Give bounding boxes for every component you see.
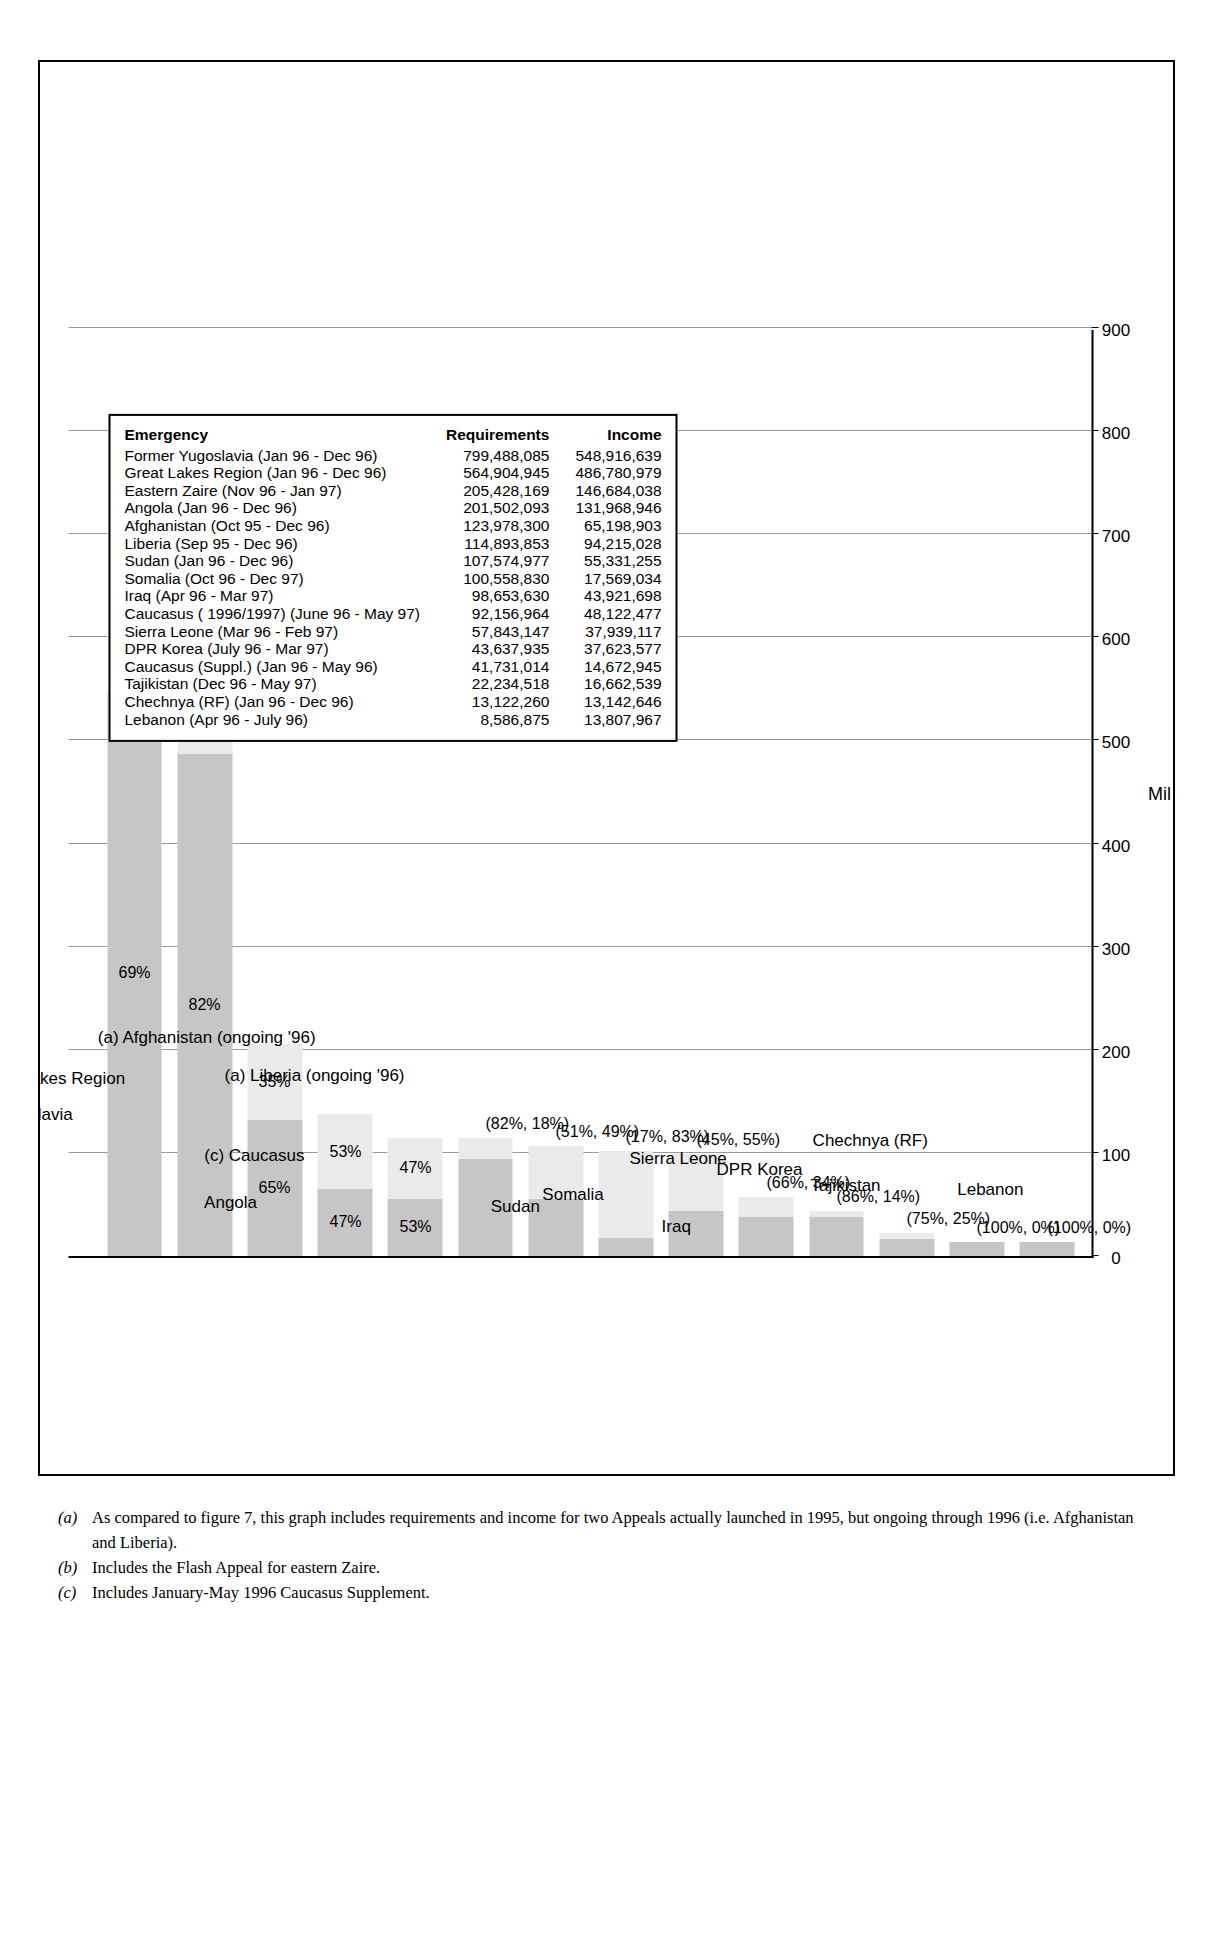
bar-group: (86%, 14%)	[809, 1211, 864, 1256]
bar-segment-shortfall	[809, 1211, 864, 1217]
x-axis-tick-label: 600	[1101, 631, 1129, 648]
bar-group: 82%18%	[177, 674, 232, 1256]
cell-income: 43,921,698	[549, 588, 661, 606]
cell-income: 65,198,903	[549, 517, 661, 535]
bar-value-label-shortfall: 47%	[399, 1160, 431, 1176]
cell-emergency: Liberia (Sep 95 - Dec 96)	[124, 535, 420, 553]
cell-requirements: 107,574,977	[420, 553, 549, 571]
cell-income: 548,916,639	[549, 447, 661, 465]
cell-requirements: 799,488,085	[420, 447, 549, 465]
table-header-income: Income	[549, 426, 661, 447]
bar-group: (75%, 25%)	[879, 1233, 934, 1256]
cell-emergency: Former Yugoslavia (Jan 96 - Dec 96)	[124, 447, 420, 465]
cell-emergency: Iraq (Apr 96 - Mar 97)	[124, 588, 420, 606]
cell-emergency: Caucasus (Suppl.) (Jan 96 - May 96)	[124, 658, 420, 676]
category-label: (a) Afghanistan (ongoing '96)	[97, 1029, 315, 1047]
cell-income: 55,331,255	[549, 553, 661, 571]
cell-emergency: Afghanistan (Oct 95 - Dec 96)	[124, 517, 420, 535]
table-row: Somalia (Oct 96 - Dec 97)100,558,83017,5…	[124, 570, 661, 588]
cell-income: 14,672,945	[549, 658, 661, 676]
cell-emergency: Great Lakes Region (Jan 96 - Dec 96)	[124, 465, 420, 483]
bar-value-label-income: 65%	[258, 1180, 290, 1196]
table-header-requirements: Requirements	[420, 426, 549, 447]
cell-requirements: 100,558,830	[420, 570, 549, 588]
category-label: Iraq	[661, 1218, 690, 1236]
x-axis-tick	[1091, 946, 1098, 947]
cell-requirements: 43,637,935	[420, 640, 549, 658]
table-row: Angola (Jan 96 - Dec 96)201,502,093131,9…	[124, 500, 661, 518]
footnote-marker: (b)	[58, 1555, 82, 1580]
cell-requirements: 564,904,945	[420, 465, 549, 483]
x-axis-tick	[1091, 327, 1098, 328]
cell-emergency: Lebanon (Apr 96 - July 96)	[124, 711, 420, 729]
cell-emergency: Caucasus ( 1996/1997) (June 96 - May 97)	[124, 605, 420, 623]
bar-segment-income	[738, 1217, 793, 1256]
bar-value-label: (100%, 0%)	[1047, 1220, 1131, 1236]
cell-requirements: 41,731,014	[420, 658, 549, 676]
category-label: Tajikistan	[810, 1177, 880, 1195]
footnote-text: As compared to figure 7, this graph incl…	[92, 1505, 1148, 1555]
category-label: Somalia	[542, 1186, 603, 1204]
bar-group: (100%, 0%)	[949, 1242, 1004, 1256]
x-axis-tick	[1091, 1255, 1098, 1256]
table-row: Caucasus ( 1996/1997) (June 96 - May 97)…	[124, 605, 661, 623]
table-row: Great Lakes Region (Jan 96 - Dec 96)564,…	[124, 465, 661, 483]
cell-requirements: 57,843,147	[420, 623, 549, 641]
bar-group: 53%47%	[387, 1138, 442, 1256]
table-row: Tajikistan (Dec 96 - May 97)22,234,51816…	[124, 676, 661, 694]
bar-value-label-income: 82%	[188, 997, 220, 1013]
footnotes: (a)As compared to figure 7, this graph i…	[58, 1505, 1148, 1605]
x-axis-tick-label: 200	[1101, 1043, 1129, 1060]
x-axis-tick	[1091, 430, 1098, 431]
cell-emergency: Sierra Leone (Mar 96 - Feb 97)	[124, 623, 420, 641]
cell-emergency: Somalia (Oct 96 - Dec 97)	[124, 570, 420, 588]
table-body: Former Yugoslavia (Jan 96 - Dec 96)799,4…	[124, 447, 661, 729]
bar-segment-shortfall	[738, 1197, 793, 1217]
cell-income: 13,142,646	[549, 693, 661, 711]
bar-group: (66%, 34%)	[738, 1197, 793, 1256]
x-axis-tick	[1091, 1152, 1098, 1153]
table-row: Former Yugoslavia (Jan 96 - Dec 96)799,4…	[124, 447, 661, 465]
footnote-marker: (c)	[58, 1580, 82, 1605]
bar-value-label-income: 47%	[329, 1214, 361, 1230]
figure-page: 69%31%82%18%65%35%47%53%53%47%(82%, 18%)…	[0, 0, 1210, 1938]
cell-requirements: 201,502,093	[420, 500, 549, 518]
table-row: Chechnya (RF) (Jan 96 - Dec 96)13,122,26…	[124, 693, 661, 711]
category-label: DPR Korea	[716, 1161, 802, 1179]
cell-requirements: 13,122,260	[420, 693, 549, 711]
table-header-row: Emergency Requirements Income	[124, 426, 661, 447]
cell-requirements: 92,156,964	[420, 605, 549, 623]
bar-segment-shortfall	[458, 1138, 513, 1159]
cell-emergency: Chechnya (RF) (Jan 96 - Dec 96)	[124, 693, 420, 711]
x-axis-tick-label: 800	[1101, 425, 1129, 442]
cell-income: 13,807,967	[549, 711, 661, 729]
x-axis-tick	[1091, 636, 1098, 637]
bar-segment-income	[949, 1242, 1004, 1256]
cell-income: 486,780,979	[549, 465, 661, 483]
x-axis-tick-label: 400	[1101, 837, 1129, 854]
cell-income: 37,939,117	[549, 623, 661, 641]
bar-segment-income	[879, 1239, 934, 1256]
table-row: DPR Korea (July 96 - Mar 97)43,637,93537…	[124, 640, 661, 658]
cell-emergency: Tajikistan (Dec 96 - May 97)	[124, 676, 420, 694]
category-label: Lebanon	[956, 1181, 1022, 1199]
cell-emergency: Sudan (Jan 96 - Dec 96)	[124, 553, 420, 571]
data-table-box: Emergency Requirements Income Former Yug…	[108, 414, 677, 742]
table-row: Lebanon (Apr 96 - July 96)8,586,87513,80…	[124, 711, 661, 729]
gridline	[68, 327, 1091, 328]
cell-requirements: 114,893,853	[420, 535, 549, 553]
x-axis-tick-label: 300	[1101, 940, 1129, 957]
x-axis-tick-label: 900	[1101, 322, 1129, 339]
footnote: (c)Includes January-May 1996 Caucasus Su…	[58, 1580, 1148, 1605]
cell-emergency: DPR Korea (July 96 - Mar 97)	[124, 640, 420, 658]
category-label: Sudan	[490, 1198, 539, 1216]
bar-segment-income	[598, 1238, 653, 1256]
bar-segment-income	[1019, 1242, 1074, 1256]
category-label: (c) Caucasus	[203, 1147, 303, 1165]
cell-requirements: 123,978,300	[420, 517, 549, 535]
category-label: Chechnya (RF)	[813, 1132, 928, 1150]
table-row: Sierra Leone (Mar 96 - Feb 97)57,843,147…	[124, 623, 661, 641]
emergency-data-table: Emergency Requirements Income Former Yug…	[124, 426, 661, 728]
cell-emergency: Eastern Zaire (Nov 96 - Jan 97)	[124, 482, 420, 500]
x-axis-tick	[1091, 843, 1098, 844]
